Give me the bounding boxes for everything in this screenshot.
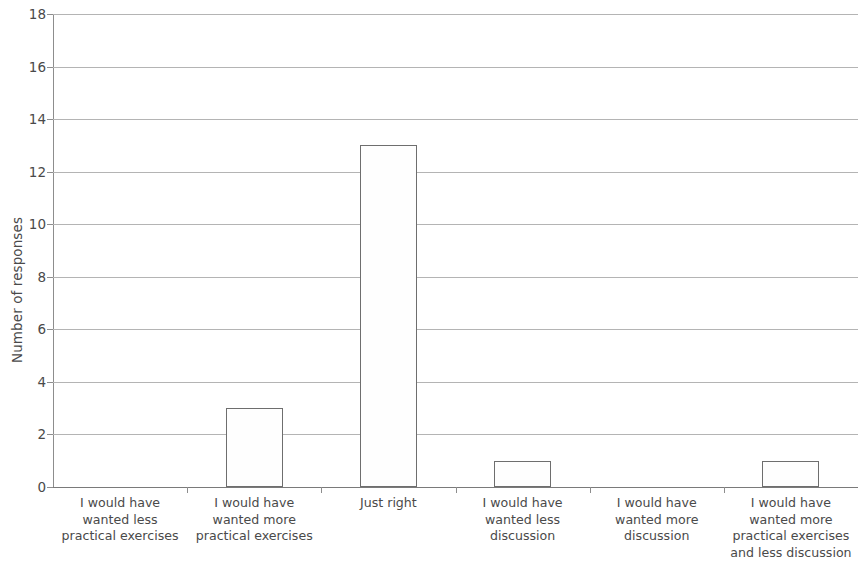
x-category-label: I would havewanted morepractical exercis… [724,495,858,561]
y-tick-label: 18 [10,6,46,22]
x-tick-mark [724,487,725,493]
x-tick-mark [456,487,457,493]
x-category-label-line: I would have [590,495,724,512]
y-tick-mark [47,277,53,278]
x-category-label-line: I would have [724,495,858,512]
y-axis-tick-labels: 024681012141618 [10,0,46,579]
x-category-label-line: practical exercises [53,528,187,545]
y-tick-label: 14 [10,111,46,127]
x-category-label-line: and less discussion [724,545,858,562]
x-category-label-line: wanted more [724,512,858,529]
y-tick-mark [47,329,53,330]
x-tick-mark [590,487,591,493]
x-category-label: I would havewanted morediscussion [590,495,724,545]
x-category-label-line: discussion [590,528,724,545]
y-tick-mark [47,224,53,225]
bar [360,145,417,487]
y-tick-label: 10 [10,216,46,232]
y-tick-mark [47,382,53,383]
x-category-label-line: Just right [321,495,455,512]
gridline [53,224,858,225]
x-category-label-line: I would have [187,495,321,512]
x-category-label: I would havewanted lesspractical exercis… [53,495,187,545]
x-category-label-line: wanted less [456,512,590,529]
x-category-label-line: wanted more [187,512,321,529]
x-category-label-line: I would have [456,495,590,512]
bar [494,461,551,487]
x-tick-mark [187,487,188,493]
x-category-label-line: discussion [456,528,590,545]
gridline [53,329,858,330]
x-category-label: I would havewanted morepractical exercis… [187,495,321,545]
x-category-label-line: I would have [53,495,187,512]
y-tick-mark [47,172,53,173]
bar-chart: Number of responses 024681012141618 I wo… [0,0,863,579]
gridline [53,382,858,383]
y-tick-label: 16 [10,59,46,75]
y-tick-label: 8 [10,269,46,285]
y-tick-mark [47,434,53,435]
x-axis-line [47,487,858,488]
gridline [53,14,858,15]
x-tick-mark [321,487,322,493]
x-axis-category-labels: I would havewanted lesspractical exercis… [53,495,858,579]
x-category-label: Just right [321,495,455,512]
bar [762,461,819,487]
y-tick-label: 2 [10,426,46,442]
x-category-label-line: practical exercises [187,528,321,545]
gridline [53,119,858,120]
y-tick-mark [47,14,53,15]
y-tick-mark [47,487,53,488]
gridline [53,434,858,435]
gridline [53,67,858,68]
y-tick-label: 12 [10,164,46,180]
x-category-label-line: wanted less [53,512,187,529]
y-tick-label: 0 [10,479,46,495]
x-category-label-line: practical exercises [724,528,858,545]
gridline [53,277,858,278]
plot-area [53,14,858,487]
y-tick-label: 6 [10,321,46,337]
y-tick-mark [47,67,53,68]
y-axis-line [53,14,54,487]
bar [226,408,283,487]
y-tick-label: 4 [10,374,46,390]
x-category-label-line: wanted more [590,512,724,529]
gridline [53,172,858,173]
x-category-label: I would havewanted lessdiscussion [456,495,590,545]
y-tick-mark [47,119,53,120]
